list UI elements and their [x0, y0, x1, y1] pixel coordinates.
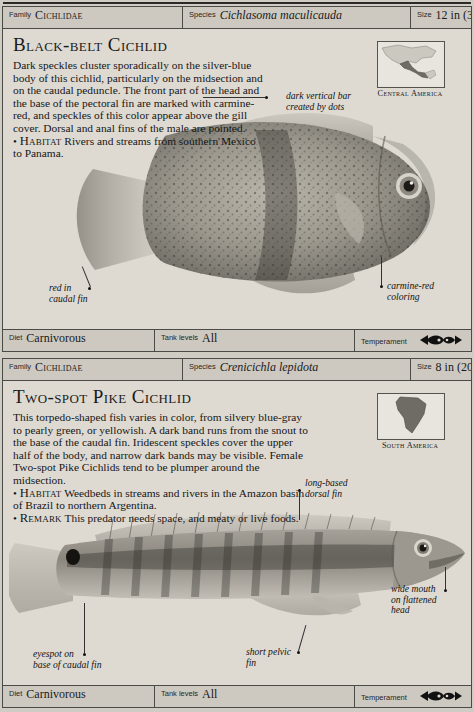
two-fish-aggressive-icon: [419, 333, 463, 351]
entry-body: Black-belt Cichlid Dark speckles cluster…: [3, 29, 471, 329]
temperament-cell: Temperament: [355, 330, 471, 351]
annotation-leader-eyespot: [84, 603, 85, 653]
description-paragraph-2: This torpedo-shaped fish varies in color…: [13, 411, 313, 487]
remark-keyword: Remark: [20, 511, 62, 525]
size-value: 12 in (30 cm): [436, 9, 471, 21]
annotation-carmine-red-coloring: carmine-red coloring: [387, 281, 471, 302]
diet-cell-2: Diet Carnivorous: [3, 686, 155, 707]
size-label-2: Size: [417, 362, 432, 371]
annotation-dot-wide-mouth: [444, 589, 447, 592]
locator-map: [377, 41, 445, 88]
annotation-eyespot-on-base-of-caudal-fin: eyespot on base of caudal fin: [33, 649, 163, 670]
annotation-leader-dark-vertical-bar: [203, 97, 265, 98]
species-cell-2: Species Crenicichla lepidota: [183, 359, 411, 380]
bullet-glyph: •: [13, 135, 17, 147]
annotation-dot-carmine-red-coloring: [380, 285, 383, 288]
field-guide-page: Family Cichlidae Species Cichlasoma macu…: [0, 0, 474, 712]
species-label-2: Species: [189, 362, 216, 371]
diet-value: Carnivorous: [26, 332, 85, 344]
page-title-2: Two-spot Pike Cichlid: [13, 387, 191, 406]
annotation-dark-vertical-bar: dark vertical bar created by dots: [286, 91, 386, 112]
size-value-2: 8 in (20 cm): [436, 361, 471, 373]
habitat-fact-2: • Habitat Weedbeds in streams and rivers…: [13, 487, 313, 512]
annotation-dot-red-in-caudal-fin: [88, 287, 91, 290]
species-entry-two-spot-pike-cichlid: Family Cichlidae Species Crenicichla lep…: [2, 358, 472, 708]
annotation-wide-mouth-on-flattened-head: wide mouth on flattened head: [391, 584, 471, 616]
remark-fact: • Remark This predator needs space, and …: [13, 512, 313, 525]
species-description: Dark speckles cluster sporadically on th…: [13, 59, 265, 160]
species-label: Species: [189, 10, 216, 19]
diet-label-2: Diet: [9, 689, 22, 698]
species-description-2: This torpedo-shaped fish varies in color…: [13, 411, 313, 524]
diet-label: Diet: [9, 333, 22, 342]
annotation-leader-long-based-dorsal-fin: [299, 492, 300, 520]
entry-header-bar: Family Cichlidae Species Cichlasoma macu…: [3, 7, 471, 29]
species-value: Cichlasoma maculicauda: [220, 9, 342, 21]
annotation-dot-dark-vertical-bar: [265, 96, 268, 99]
tank-levels-value: All: [202, 332, 217, 344]
family-label: Family: [9, 10, 31, 19]
north-central-america-map-icon: [378, 42, 442, 85]
size-cell: Size 12 in (30 cm): [411, 7, 471, 28]
entry-footer-bar-2: Diet Carnivorous Tank levels All Tempera…: [3, 685, 471, 707]
tank-levels-value-2: All: [202, 688, 217, 700]
temperament-label: Temperament: [361, 337, 407, 346]
temperament-cell-2: Temperament: [355, 686, 471, 707]
south-america-map-icon: [378, 394, 442, 437]
family-label-2: Family: [9, 362, 31, 371]
diet-value-2: Carnivorous: [26, 688, 85, 700]
annotation-short-pelvic-fin: short pelvic fin: [246, 647, 316, 668]
annotation-dot-short-pelvic-fin: [297, 651, 300, 654]
page-top-rule: [3, 2, 471, 4]
tank-levels-label: Tank levels: [161, 333, 198, 342]
map-caption-2: South America: [370, 441, 450, 451]
family-value-2: Cichlidae: [35, 361, 83, 373]
annotation-red-in-caudal-fin: red in caudal fin: [49, 283, 139, 304]
species-cell: Species Cichlasoma maculicauda: [183, 7, 411, 28]
bullet-glyph-remark: •: [13, 512, 17, 524]
entry-header-bar-2: Family Cichlidae Species Crenicichla lep…: [3, 359, 471, 381]
annotation-dot-eyespot: [83, 653, 86, 656]
size-label: Size: [417, 10, 432, 19]
diet-cell: Diet Carnivorous: [3, 330, 155, 351]
tank-levels-cell: Tank levels All: [155, 330, 355, 351]
bullet-glyph-habitat: •: [13, 487, 17, 499]
locator-map-2: [377, 393, 445, 440]
habitat-keyword-2: Habitat: [20, 486, 62, 500]
tank-levels-cell-2: Tank levels All: [155, 686, 355, 707]
species-entry-black-belt-cichlid: Family Cichlidae Species Cichlasoma macu…: [2, 6, 472, 352]
tank-levels-label-2: Tank levels: [161, 689, 198, 698]
temperament-label-2: Temperament: [361, 693, 407, 702]
family-cell: Family Cichlidae: [3, 7, 183, 28]
annotation-long-based-dorsal-fin: long-based dorsal fin: [305, 478, 395, 499]
family-cell-2: Family Cichlidae: [3, 359, 183, 380]
entry-footer-bar: Diet Carnivorous Tank levels All Tempera…: [3, 329, 471, 351]
habitat-fact: • Habitat Rivers and streams from southe…: [13, 135, 265, 160]
entry-body-2: Two-spot Pike Cichlid This torpedo-shape…: [3, 381, 471, 685]
size-cell-2: Size 8 in (20 cm): [411, 359, 471, 380]
habitat-keyword: Habitat: [20, 134, 62, 148]
family-value: Cichlidae: [35, 9, 83, 21]
page-title: Black-belt Cichlid: [13, 35, 167, 54]
annotation-leader-carmine-red-coloring: [381, 257, 382, 285]
species-value-2: Crenicichla lepidota: [220, 361, 319, 373]
remark-text: This predator needs space, and meaty or …: [64, 512, 298, 524]
two-fish-aggressive-icon-2: [419, 689, 463, 707]
annotation-leader-wide-mouth: [445, 567, 446, 589]
